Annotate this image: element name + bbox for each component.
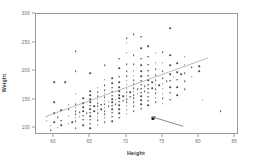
data-point: [133, 63, 135, 65]
data-point: [53, 113, 55, 115]
data-point: [90, 127, 92, 129]
data-point: [126, 88, 128, 90]
data-point: [68, 123, 70, 125]
x-tick-mark: [198, 134, 199, 137]
data-point: [104, 122, 106, 124]
data-point: [104, 100, 106, 102]
data-point: [79, 116, 81, 118]
data-point: [148, 84, 150, 86]
data-point: [111, 82, 113, 84]
data-point: [126, 84, 128, 86]
data-point: [71, 122, 73, 124]
data-point: [180, 73, 182, 75]
x-tick-label: 85: [232, 139, 238, 144]
data-point: [148, 96, 150, 98]
data-point: [148, 75, 150, 77]
data-point: [100, 104, 102, 106]
data-point: [61, 120, 63, 122]
data-point: [111, 105, 113, 107]
data-point: [115, 103, 117, 105]
data-point: [133, 75, 135, 77]
data-point: [104, 89, 106, 91]
data-point: [57, 127, 59, 129]
data-point: [82, 98, 84, 100]
data-point: [198, 65, 200, 67]
data-point: [75, 103, 77, 105]
data-point: [82, 102, 84, 104]
data-point: [119, 67, 121, 69]
data-point: [126, 70, 128, 72]
data-point: [111, 102, 113, 104]
data-point: [184, 73, 186, 75]
data-point: [140, 58, 142, 60]
y-tick-label: 100: [22, 125, 30, 130]
data-point: [111, 121, 113, 123]
data-point: [86, 113, 88, 115]
data-point: [126, 113, 128, 115]
data-point: [122, 100, 124, 102]
data-point: [162, 77, 164, 79]
data-point: [111, 87, 113, 89]
data-point: [144, 90, 146, 92]
data-point: [115, 99, 117, 101]
data-point: [122, 95, 124, 97]
data-point: [97, 113, 99, 115]
data-point: [173, 76, 175, 78]
data-point: [90, 115, 92, 117]
data-point: [140, 95, 142, 97]
data-point: [126, 109, 128, 111]
data-point: [169, 54, 171, 56]
data-point: [111, 109, 113, 111]
data-point: [75, 50, 77, 52]
data-point: [97, 102, 99, 104]
data-point: [119, 90, 121, 92]
data-point: [133, 102, 135, 104]
data-point: [93, 106, 95, 108]
data-point: [97, 95, 99, 97]
data-point: [155, 52, 157, 54]
data-point: [104, 79, 106, 81]
data-point: [220, 110, 222, 112]
data-point: [155, 89, 157, 91]
data-point: [140, 80, 142, 82]
data-point: [46, 116, 48, 118]
data-point: [148, 45, 150, 47]
data-point: [111, 95, 113, 97]
data-point: [97, 109, 99, 111]
data-point: [126, 98, 128, 100]
data-point: [53, 102, 55, 104]
data-point: [68, 115, 70, 117]
data-point: [119, 98, 121, 100]
data-point: [177, 62, 179, 64]
data-point: [140, 88, 142, 90]
data-point: [151, 87, 153, 89]
data-point: [177, 79, 179, 81]
data-point: [133, 54, 135, 56]
data-point: [140, 99, 142, 101]
data-point: [93, 110, 95, 112]
data-point: [129, 91, 131, 93]
data-point: [68, 109, 70, 111]
data-point: [75, 117, 77, 119]
x-tick-label: 60: [50, 139, 56, 144]
data-point: [148, 64, 150, 66]
data-point: [75, 70, 77, 72]
data-point: [75, 107, 77, 109]
data-point: [155, 69, 157, 71]
data-point: [133, 87, 135, 89]
data-point: [90, 73, 92, 75]
data-point: [198, 70, 200, 72]
data-point: [162, 93, 164, 95]
data-point: [90, 102, 92, 104]
data-point: [162, 70, 164, 72]
data-point: [177, 71, 179, 73]
data-point: [126, 102, 128, 104]
data-point: [137, 93, 139, 95]
data-point: [119, 76, 121, 78]
data-point: [126, 63, 128, 65]
data-point: [169, 86, 171, 88]
data-point: [97, 119, 99, 121]
data-point: [50, 130, 52, 132]
data-point: [97, 124, 99, 126]
data-point: [126, 80, 128, 82]
